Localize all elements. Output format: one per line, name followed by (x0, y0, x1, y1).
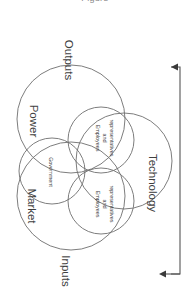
arrow-left-icon-bottom (159, 271, 166, 278)
label-outputs: Outputs (63, 40, 75, 81)
label-employees-upper-line1: Employees (95, 125, 101, 152)
label-employees-upper-line3: representatives (109, 120, 115, 157)
label-employees-lower-line2: and (102, 200, 108, 209)
label-employees-lower-line3: representatives (109, 186, 115, 223)
label-government: Government (48, 157, 54, 187)
label-employees-upper-line2: and (102, 134, 108, 143)
venn-diagram: Power Market Technology Government Emplo… (0, 0, 190, 294)
label-market: Market (26, 188, 38, 224)
label-power: Power (28, 105, 40, 138)
clipped-caption: Figure (0, 0, 190, 3)
label-inputs: Inputs (60, 255, 72, 287)
feedback-loop-group (159, 64, 180, 278)
label-employees-lower-line1: Employees (95, 191, 101, 218)
feedback-loop-line (171, 67, 180, 274)
figure-canvas: Figure Power Market Technology Governmen… (0, 0, 190, 294)
label-technology: Technology (147, 154, 159, 212)
arrow-left-icon-top (171, 64, 178, 71)
